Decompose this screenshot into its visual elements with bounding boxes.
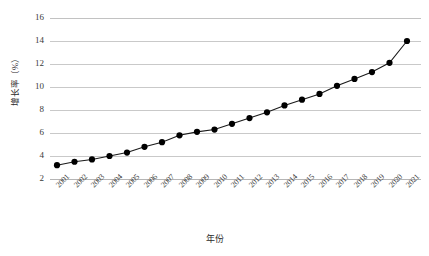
data-point-marker — [106, 153, 112, 159]
data-point-marker — [211, 126, 217, 132]
data-point-marker — [334, 83, 340, 89]
data-point-marker — [124, 149, 130, 155]
y-axis-title: 增长率（%） — [8, 40, 20, 120]
data-point-marker — [316, 91, 322, 97]
y-tick-label: 2 — [20, 174, 44, 183]
y-tick-label: 10 — [20, 82, 44, 91]
data-point-marker — [89, 156, 95, 162]
data-point-marker — [176, 132, 182, 138]
x-axis-tick-labels: 2001200220032004200520062007200820092010… — [50, 179, 421, 239]
data-point-marker — [141, 144, 147, 150]
growth-rate-line-chart: 增长率（%） 161412108642 20012002200320042005… — [0, 0, 429, 256]
data-point-marker — [386, 60, 392, 66]
data-point-marker — [404, 38, 410, 44]
y-tick-label: 14 — [20, 36, 44, 45]
x-axis-title: 年份 — [0, 232, 429, 245]
data-point-marker — [281, 102, 287, 108]
data-point-marker — [54, 162, 60, 168]
y-tick-label: 16 — [20, 13, 44, 22]
series-line — [50, 18, 421, 179]
data-point-marker — [351, 76, 357, 82]
y-tick-label: 4 — [20, 151, 44, 160]
y-tick-label: 8 — [20, 105, 44, 114]
data-point-marker — [194, 129, 200, 135]
data-point-marker — [369, 69, 375, 75]
series-polyline — [57, 41, 407, 165]
data-point-marker — [264, 109, 270, 115]
data-point-marker — [159, 139, 165, 145]
data-point-marker — [246, 115, 252, 121]
y-tick-label: 6 — [20, 128, 44, 137]
plot-area — [50, 18, 421, 179]
data-point-marker — [299, 97, 305, 103]
data-point-marker — [71, 159, 77, 165]
data-point-marker — [229, 121, 235, 127]
y-tick-label: 12 — [20, 59, 44, 68]
y-axis-tick-labels: 161412108642 — [20, 0, 44, 256]
